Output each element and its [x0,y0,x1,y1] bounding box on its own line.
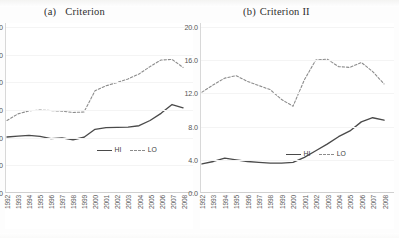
legend-label-hi: HI [304,151,311,158]
x-axis-tick-label: 1997 [59,195,66,209]
x-axis-tick-label: 2006 [359,195,366,209]
x-axis-tick-label: 1993 [210,195,217,209]
x-axis-tick-label: 2008 [382,195,389,209]
y-gridline [6,110,193,111]
x-axis-tick-label: 2006 [159,195,166,209]
panel-titles-row: (a)Criterion (b)Criterion II [0,6,399,22]
legend-item-hi-a: HI [97,147,121,154]
x-axis-tick-label: 2007 [170,195,177,209]
y-gridline [201,160,394,161]
x-axis-tick-label: 2000 [92,195,99,209]
legend-item-lo-a: LO [130,147,157,154]
legend-swatch-solid-icon [286,154,301,155]
panel-b-title: (b)Criterion II [243,6,310,17]
legend-label-hi: HI [115,147,122,154]
plot-area-a: 0.010.020.030.040.050.060.0 [5,23,193,193]
y-gridline [201,93,394,94]
chart-panel-a: 0.010.020.030.040.050.060.0 199219931994… [5,23,193,229]
x-axis-tick-label: 2002 [114,195,121,209]
y-axis-tick-label: 16.0 [184,56,198,65]
y-axis-tick-label: 20.0 [184,23,198,32]
series-line-lo [7,59,183,120]
legend-item-hi-b: HI [286,151,310,158]
x-axis-tick-label: 2004 [137,195,144,209]
y-axis-tick-label: 20.0 [0,133,3,142]
legend-swatch-dashed-icon [319,154,334,155]
x-axis-tick-label: 1997 [256,195,263,209]
x-axis-tick-label: 2001 [103,195,110,209]
x-axis-tick-label: 2003 [325,195,332,209]
x-axis-tick-label: 1999 [81,195,88,209]
x-axis-tick-label: 2001 [302,195,309,209]
legend-label-lo: LO [148,147,157,154]
panel-b-title-text: Criterion II [260,6,310,17]
x-axis-labels-b: 1992199319941995199619971998199920002001… [200,193,394,229]
legend-item-lo-b: LO [319,151,346,158]
figure-container: (a)Criterion (b)Criterion II 0.010.020.0… [0,0,399,238]
panel-a-title-text: Criterion [65,6,105,17]
x-axis-tick-label: 2008 [181,195,188,209]
y-gridline [201,27,394,28]
y-gridline [6,27,193,28]
y-axis-tick-label: 8.0 [188,122,198,131]
y-gridline [6,138,193,139]
x-axis-tick-label: 1994 [26,195,33,209]
y-gridline [201,60,394,61]
x-axis-tick-label: 1993 [15,195,22,209]
y-axis-tick-label: 60.0 [0,23,3,32]
x-axis-tick-label: 1998 [267,195,274,209]
series-line-lo [202,59,384,106]
y-gridline [201,127,394,128]
chart-panel-b: 0.04.08.012.016.020.0 199219931994199519… [200,23,394,229]
legend-b: HI LO [286,151,346,158]
x-axis-tick-label: 2002 [313,195,320,209]
x-axis-tick-label: 1992 [199,195,206,209]
x-axis-tick-label: 1998 [70,195,77,209]
x-axis-tick-label: 1992 [4,195,11,209]
y-axis-tick-label: 40.0 [0,78,3,87]
y-axis-tick-label: 0.0 [0,189,3,198]
plot-lines-b [201,23,394,192]
panel-b-title-label: (b) [243,6,256,17]
bottom-fade [0,233,399,238]
y-gridline [6,55,193,56]
x-axis-tick-label: 2000 [290,195,297,209]
y-axis-tick-label: 4.0 [188,155,198,164]
y-gridline [6,165,193,166]
x-axis-tick-label: 2005 [347,195,354,209]
legend-swatch-solid-icon [97,150,112,151]
y-gridline [6,82,193,83]
legend-a: HI LO [97,147,157,154]
panel-a-title-label: (a) [44,6,56,17]
y-axis-tick-label: 12.0 [184,89,198,98]
legend-swatch-dashed-icon [130,150,145,151]
x-axis-tick-label: 1996 [245,195,252,209]
legend-label-lo: LO [337,151,346,158]
x-axis-tick-label: 1996 [48,195,55,209]
x-axis-tick-label: 1995 [233,195,240,209]
x-axis-tick-label: 2004 [336,195,343,209]
y-axis-tick-label: 30.0 [0,106,3,115]
y-axis-tick-label: 50.0 [0,50,3,59]
y-axis-tick-label: 10.0 [0,161,3,170]
x-axis-tick-label: 1994 [222,195,229,209]
panel-a-title: (a)Criterion [44,6,105,17]
x-axis-tick-label: 1999 [279,195,286,209]
x-axis-labels-a: 1992199319941995199619971998199920002001… [5,193,193,229]
x-axis-tick-label: 2003 [125,195,132,209]
plot-area-b: 0.04.08.012.016.020.0 [200,23,394,193]
x-axis-tick-label: 2005 [148,195,155,209]
x-axis-tick-label: 1995 [37,195,44,209]
x-axis-tick-label: 2007 [370,195,377,209]
plot-lines-a [6,23,193,192]
y-axis-tick-label: 0.0 [188,189,198,198]
